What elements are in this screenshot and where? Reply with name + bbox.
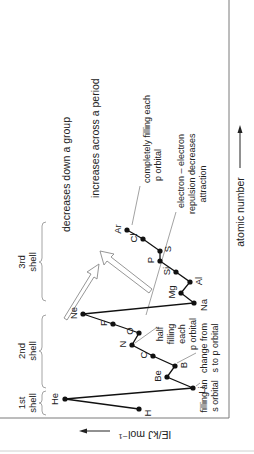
ann-change-2: s to p orbital — [210, 323, 220, 372]
shell3-label-2: shell — [27, 252, 38, 272]
element-label-be: Be — [152, 370, 163, 382]
data-point-be — [164, 374, 169, 379]
ann-filling-s-1: filling an — [199, 379, 209, 412]
x-axis-label-group: atomic number — [234, 125, 246, 247]
data-point-h — [136, 406, 141, 411]
element-label-o: O — [124, 327, 135, 334]
data-point-o — [136, 330, 141, 335]
ann-half-1: half — [155, 326, 165, 341]
ann-repulsion-2: repulsion decreases — [187, 133, 197, 214]
period-trend-label: increases across a period — [89, 78, 101, 198]
element-label-he: He — [49, 393, 60, 405]
element-labels: HHeLiBeBCNOFNeNaMgAlSiPSClAr — [49, 224, 209, 416]
element-label-f: F — [98, 320, 109, 326]
shell2-label-2: shell — [27, 341, 38, 361]
element-label-ne: Ne — [68, 307, 79, 319]
element-label-n: N — [117, 340, 128, 347]
ionisation-energy-line — [65, 230, 194, 409]
x-axis-label: atomic number — [234, 177, 246, 247]
ionisation-energy-chart: atomic number IE/kJ mol⁻¹ 1st shell 2nd … — [0, 0, 254, 454]
data-point-he — [62, 396, 67, 401]
data-point-ar — [124, 227, 129, 232]
ann-half-3: each — [177, 324, 187, 344]
element-label-li: Li — [196, 386, 207, 393]
data-point-mg — [178, 290, 183, 295]
data-point-n — [129, 342, 134, 347]
data-point-na — [191, 300, 196, 305]
element-label-h: H — [142, 409, 153, 416]
data-points — [62, 227, 196, 411]
data-point-si — [173, 269, 178, 274]
data-point-f — [110, 321, 115, 326]
brace-3rd-shell — [39, 222, 46, 301]
data-point-ne — [80, 311, 85, 316]
element-label-si: Si — [161, 267, 172, 275]
brace-1st-shell — [39, 391, 46, 415]
data-point-b — [172, 363, 177, 368]
ann-change-1: change from — [199, 323, 209, 373]
element-label-s: S — [162, 246, 173, 252]
shell1-label: 1st — [16, 396, 27, 409]
data-point-cl — [140, 236, 145, 241]
y-axis-label: IE/kJ mol⁻¹ — [118, 429, 171, 441]
group-trend-label: decreases down a group — [60, 117, 72, 232]
ann-repulsion-1: electron – electron — [176, 134, 186, 208]
brace-2nd-shell — [39, 315, 46, 388]
element-label-c: C — [138, 351, 149, 358]
element-label-b: B — [178, 362, 189, 368]
ann-completely-filling: completely filling each — [142, 95, 152, 183]
element-label-ar: Ar — [112, 224, 123, 234]
data-point-c — [150, 353, 155, 358]
element-label-al: Al — [193, 277, 204, 285]
ann-repulsion-3: attraction — [198, 165, 208, 202]
data-point-al — [187, 279, 192, 284]
element-label-p: P — [145, 257, 156, 263]
shell2-label: 2nd — [16, 343, 27, 359]
data-point-p — [157, 258, 162, 263]
y-axis-label-group: IE/kJ mol⁻¹ — [79, 429, 171, 442]
ann-completely-filling-2: p orbital — [153, 149, 163, 181]
ann-half-4: p orbital — [188, 318, 198, 350]
y-axis-arrowhead-icon — [79, 429, 87, 434]
element-label-na: Na — [198, 298, 209, 311]
x-axis-arrowhead-icon — [238, 125, 243, 133]
shell3-label: 3rd — [16, 255, 27, 269]
shell1-label-2: shell — [27, 393, 38, 413]
element-label-mg: Mg — [166, 285, 177, 298]
element-label-cl: Cl — [128, 234, 139, 243]
data-point-li — [190, 385, 195, 390]
ann-half-2: filling — [166, 324, 176, 345]
shell-braces — [39, 222, 46, 415]
ann-filling-s-2: s orbital — [210, 380, 220, 412]
